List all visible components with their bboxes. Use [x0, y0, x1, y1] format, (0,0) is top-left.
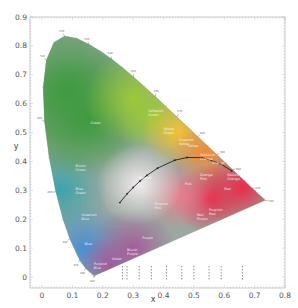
wavelength-label: 550 — [131, 70, 136, 73]
planck-point — [132, 187, 134, 189]
bottom-markers — [122, 266, 242, 280]
wavelength-label: 580 — [200, 132, 205, 135]
x-tick-label: 0.4 — [158, 291, 170, 300]
y-tick-label: 0.5 — [15, 128, 27, 137]
region-label: Violet — [112, 257, 122, 261]
x-tick-label: 0 — [40, 291, 45, 300]
wavelength-label: 620 — [256, 187, 261, 190]
region-label: Yellow — [188, 144, 199, 148]
wavelength-label: 570 — [177, 110, 182, 113]
region-label: ReddishOrange — [227, 173, 240, 181]
y-axis-title: y — [14, 142, 19, 151]
region-label: Purple — [142, 236, 153, 240]
wavelength-label: 500 — [37, 117, 42, 120]
x-tick-label: 0.2 — [97, 291, 109, 300]
wavelength-label: 540 — [108, 52, 113, 55]
wavelength-label: 530 — [84, 38, 89, 41]
y-tick-label: 0 — [22, 273, 27, 282]
wavelength-label: 700 — [269, 200, 274, 203]
y-tick-label: 0.7 — [15, 70, 27, 79]
wavelength-label: 480 — [63, 241, 68, 244]
planck-point — [126, 193, 128, 195]
y-tick-label: 0.1 — [15, 244, 27, 253]
wavelength-label: 470 — [73, 264, 78, 267]
y-tick-label: 0.4 — [15, 157, 27, 166]
region-label: Blue — [85, 242, 93, 246]
region-label: Green — [91, 121, 101, 125]
x-tick-label: 0.8 — [279, 291, 291, 300]
x-axis-title: x — [151, 295, 156, 304]
wavelength-label: 590 — [220, 151, 225, 154]
x-tick-label: 0.1 — [66, 291, 78, 300]
wavelength-label: 520 — [59, 30, 64, 33]
region-label: Orange — [212, 161, 225, 165]
y-tick-label: 0.3 — [15, 186, 27, 195]
wavelength-label: 600 — [236, 168, 241, 171]
region-label: Pink — [185, 182, 192, 186]
x-axis-ticks: 00.10.20.30.40.50.60.70.8 — [40, 291, 292, 300]
region-label: BluishGreen — [75, 164, 85, 172]
wavelength-label: 380 — [90, 280, 95, 283]
planck-point — [119, 202, 121, 204]
region-label: BluishPurple — [127, 248, 138, 256]
wavelength-label: 510 — [40, 55, 45, 58]
y-tick-label: 0.2 — [15, 215, 27, 224]
chromaticity-chart: 3804604704804905005105205305405505605705… — [0, 0, 298, 308]
wavelength-label: 490 — [47, 191, 52, 194]
x-tick-label: 0.5 — [188, 291, 200, 300]
region-label: Neutral — [139, 176, 152, 180]
planck-point — [186, 157, 188, 159]
wavelength-label: 560 — [154, 90, 159, 93]
y-tick-label: 0.8 — [15, 41, 27, 50]
x-tick-label: 0.3 — [127, 291, 139, 300]
planck-point — [231, 170, 233, 172]
x-tick-label: 0.6 — [218, 291, 230, 300]
region-label: YellowGreen — [164, 127, 175, 135]
region-label: Red — [224, 187, 230, 191]
planck-point — [174, 159, 176, 161]
y-tick-label: 0.9 — [15, 13, 27, 22]
planck-point — [139, 180, 141, 182]
y-tick-label: 0.6 — [15, 99, 27, 108]
x-tick-label: 0.7 — [249, 291, 261, 300]
wavelength-label: 460 — [80, 272, 85, 275]
color-gamut — [0, 0, 298, 308]
planck-point — [157, 167, 159, 169]
